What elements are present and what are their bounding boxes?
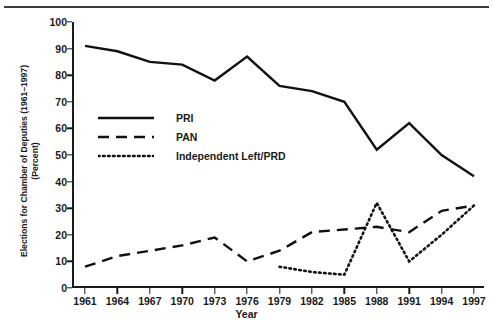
x-tick-label: 1967 xyxy=(138,295,161,307)
x-tick-label: 1988 xyxy=(365,295,388,307)
x-tick-label: 1970 xyxy=(171,295,194,307)
x-tick-mark xyxy=(473,288,474,294)
x-tick-label: 1979 xyxy=(268,295,291,307)
x-tick-mark xyxy=(84,288,85,294)
x-tick-label: 1982 xyxy=(300,295,323,307)
legend-label: PRI xyxy=(176,112,194,124)
y-tick-label: 50 xyxy=(55,149,67,161)
x-tick-mark xyxy=(441,288,442,294)
x-axis-title: Year xyxy=(0,308,493,320)
legend-item-independent-left-prd[interactable]: Independent Left/PRD xyxy=(98,146,286,165)
x-tick-label: 1997 xyxy=(462,295,485,307)
x-tick-label: 1991 xyxy=(397,295,420,307)
x-tick-mark xyxy=(408,288,409,294)
x-tick-label: 1985 xyxy=(333,295,356,307)
x-tick-mark xyxy=(149,288,150,294)
x-tick-mark xyxy=(376,288,377,294)
y-tick-label: 90 xyxy=(55,43,67,55)
x-tick-mark xyxy=(279,288,280,294)
legend-label: Independent Left/PRD xyxy=(176,150,286,162)
legend-item-pan[interactable]: PAN xyxy=(98,127,286,146)
chart-legend: PRIPANIndependent Left/PRD xyxy=(98,108,286,165)
y-tick-label: 100 xyxy=(49,16,67,28)
x-tick-mark xyxy=(344,288,345,294)
series-line-independent-left-prd xyxy=(280,203,475,275)
x-tick-label: 1994 xyxy=(430,295,453,307)
x-tick-mark xyxy=(182,288,183,294)
x-tick-mark xyxy=(311,288,312,294)
x-tick-label: 1964 xyxy=(106,295,129,307)
x-tick-mark xyxy=(214,288,215,294)
x-tick-mark xyxy=(117,288,118,294)
series-line-pan xyxy=(85,206,474,267)
top-divider-rule xyxy=(4,6,489,8)
y-tick-label: 80 xyxy=(55,69,67,81)
y-axis-title: Elections for Chamber of Deputies (1961–… xyxy=(19,11,41,311)
legend-item-pri[interactable]: PRI xyxy=(98,108,286,127)
y-tick-label: 40 xyxy=(55,176,67,188)
y-tick-label: 0 xyxy=(61,282,67,294)
legend-swatch-dashed xyxy=(98,131,154,143)
y-tick-label: 10 xyxy=(55,255,67,267)
legend-swatch-dotted xyxy=(98,150,154,162)
x-tick-mark xyxy=(246,288,247,294)
y-tick-label: 60 xyxy=(55,122,67,134)
x-tick-label: 1976 xyxy=(235,295,258,307)
legend-swatch-solid xyxy=(98,112,154,124)
legend-label: PAN xyxy=(176,131,197,143)
y-tick-label: 30 xyxy=(55,202,67,214)
chart-figure: Elections for Chamber of Deputies (1961–… xyxy=(0,0,493,329)
x-tick-label: 1973 xyxy=(203,295,226,307)
y-tick-label: 20 xyxy=(55,229,67,241)
x-tick-label: 1961 xyxy=(73,295,96,307)
y-tick-label: 70 xyxy=(55,96,67,108)
